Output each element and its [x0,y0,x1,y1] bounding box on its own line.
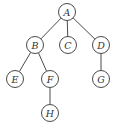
node-d: D [93,37,110,54]
edge-b-f [38,53,46,71]
node-h: H [42,105,59,122]
node-f: F [42,71,59,88]
edge-b-e [19,52,30,71]
node-a: A [59,4,76,21]
node-label: A [63,7,71,18]
node-b: B [27,37,44,54]
node-e: E [7,71,24,88]
node-label: C [64,40,72,51]
node-label: H [45,108,55,119]
node-c: C [60,37,77,54]
edges-group [19,18,101,105]
node-g: G [93,71,110,88]
node-label: D [96,40,105,51]
node-label: F [46,74,54,85]
edge-a-d [73,18,95,39]
node-label: G [97,74,105,85]
edge-a-b [41,18,61,39]
node-label: B [31,40,39,51]
tree-diagram: ABCDEFGH [0,0,116,133]
node-label: E [11,74,19,85]
